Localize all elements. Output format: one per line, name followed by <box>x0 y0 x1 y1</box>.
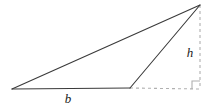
triangle-figure-svg: b h <box>0 0 215 107</box>
right-angle-marker <box>192 81 200 89</box>
triangle-base <box>12 88 130 89</box>
height-label: h <box>187 45 194 60</box>
geometry-diagram: b h <box>0 0 215 107</box>
base-extension-dashed-line <box>130 88 200 89</box>
triangle-side-upper <box>12 5 200 89</box>
base-label: b <box>65 91 72 106</box>
